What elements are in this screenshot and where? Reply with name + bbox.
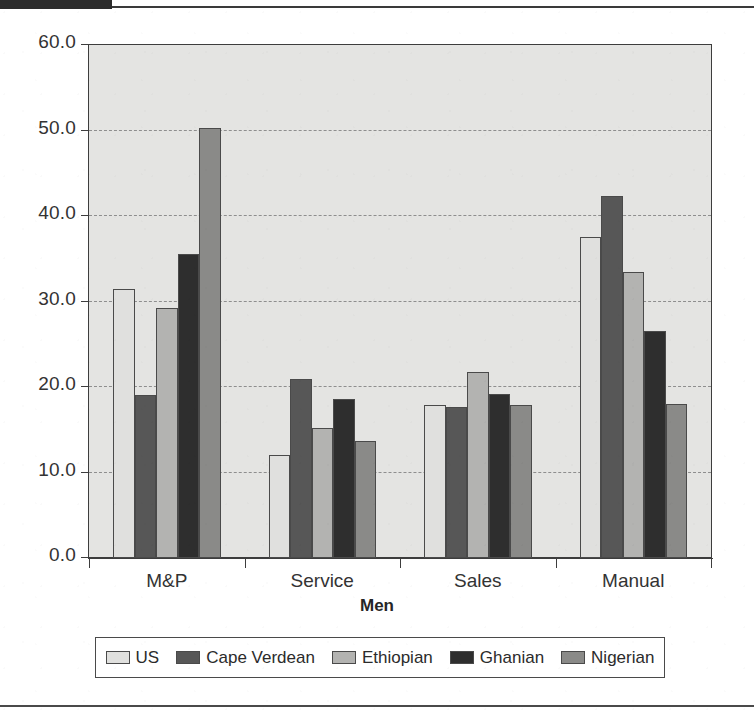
bar (424, 405, 446, 558)
x-axis-tick (711, 559, 712, 568)
bottom-horizontal-rule (0, 705, 754, 707)
bar (666, 404, 688, 558)
legend-swatch-icon (561, 651, 585, 664)
y-axis-tick (81, 557, 88, 558)
legend-item-us[interactable]: US (106, 648, 160, 668)
x-axis-label-sales: Sales (454, 570, 502, 592)
y-axis-tick-label: 40.0 (38, 202, 76, 224)
legend-label: US (136, 648, 160, 668)
y-axis-tick-label: 0.0 (49, 544, 76, 566)
bar (489, 394, 511, 558)
bar (644, 331, 666, 558)
y-axis-tick (81, 472, 88, 473)
y-axis-tick (81, 44, 88, 45)
bar (333, 399, 355, 558)
bar (580, 237, 602, 558)
x-axis-tick (400, 559, 401, 568)
bar (467, 372, 489, 558)
bar-group-sales (424, 45, 532, 558)
legend-item-ghanian[interactable]: Ghanian (450, 648, 544, 668)
x-axis-title: Men (0, 596, 754, 616)
x-axis-tick (245, 559, 246, 568)
chart-page: 0.010.020.030.040.050.060.0 M&PServiceSa… (0, 0, 754, 714)
bar (178, 254, 200, 558)
y-axis-tick (81, 215, 88, 216)
legend-label: Ghanian (480, 648, 544, 668)
bar (601, 196, 623, 558)
bar (312, 428, 334, 558)
bar (113, 289, 135, 558)
chart-legend: USCape VerdeanEthiopianGhanianNigerian (95, 637, 665, 678)
y-axis-tick-label: 10.0 (38, 459, 76, 481)
bar-group-m-p (113, 45, 221, 558)
y-axis-tick (81, 386, 88, 387)
legend-swatch-icon (106, 651, 130, 664)
bar (355, 441, 377, 558)
x-axis-label-service: Service (291, 570, 354, 592)
bar (269, 455, 291, 558)
y-axis-tick-label: 20.0 (38, 373, 76, 395)
bar (199, 128, 221, 558)
bar-group-service (269, 45, 377, 558)
legend-item-nigerian[interactable]: Nigerian (561, 648, 654, 668)
bar (623, 272, 645, 558)
bar (446, 407, 468, 558)
legend-swatch-icon (332, 651, 356, 664)
bar (510, 405, 532, 558)
legend-label: Cape Verdean (206, 648, 315, 668)
bar (156, 308, 178, 558)
y-axis-tick-label: 30.0 (38, 288, 76, 310)
x-axis-tick (556, 559, 557, 568)
x-axis-tick (89, 559, 90, 568)
y-axis-tick (81, 301, 88, 302)
legend-swatch-icon (176, 651, 200, 664)
bar (290, 379, 312, 558)
bar (135, 395, 157, 558)
x-axis-label-m-p: M&P (146, 570, 187, 592)
legend-swatch-icon (450, 651, 474, 664)
x-axis-label-manual: Manual (602, 570, 664, 592)
bar-groups (89, 45, 711, 558)
bar-group-manual (580, 45, 688, 558)
legend-item-cape-verdean[interactable]: Cape Verdean (176, 648, 315, 668)
legend-item-ethiopian[interactable]: Ethiopian (332, 648, 433, 668)
y-axis-tick (81, 130, 88, 131)
legend-label: Nigerian (591, 648, 654, 668)
top-horizontal-rule (112, 6, 754, 8)
legend-label: Ethiopian (362, 648, 433, 668)
y-axis-tick-label: 60.0 (38, 31, 76, 53)
y-axis-tick-label: 50.0 (38, 117, 76, 139)
